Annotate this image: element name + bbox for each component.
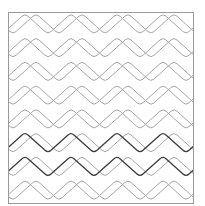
zigzag-strand [0,37,205,58]
zigzag-strand [0,85,205,106]
zigzag-strand [0,180,205,201]
zigzag-strand-dark [0,132,205,153]
zigzag-strand [0,109,205,130]
zigzag-strand-dark [0,156,205,177]
zigzag-pattern [0,0,205,206]
pattern-row [0,156,205,177]
pattern-row [0,85,205,106]
pattern-row [0,14,205,35]
pattern-row [0,180,205,201]
pattern-rows [0,14,205,201]
zigzag-strand [0,61,205,82]
zigzag-strand [0,14,205,35]
pattern-row [0,109,205,130]
pattern-row [0,61,205,82]
pattern-frame [9,13,194,204]
pattern-row [0,37,205,58]
pattern-row [0,132,205,153]
